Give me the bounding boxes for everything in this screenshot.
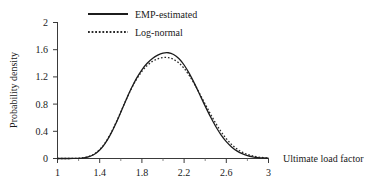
legend-label-emp-estimated: EMP-estimated: [135, 9, 197, 20]
y-tick-label-0p4: 0.4: [36, 126, 49, 137]
chart-legend: EMP-estimated Log-normal: [88, 9, 197, 38]
series-line-emp-estimated: [58, 53, 269, 159]
y-tick-label-1p6: 1.6: [36, 44, 49, 55]
x-tick-label-3: 3: [266, 167, 271, 178]
y-tick-label-0: 0: [43, 153, 48, 164]
legend-label-log-normal: Log-normal: [135, 27, 183, 38]
x-axis-title: Ultimate load factor: [283, 153, 364, 164]
x-tick-label-1p4: 1.4: [93, 167, 106, 178]
x-tick-label-2p6: 2.6: [220, 167, 233, 178]
y-axis-title: Probability density: [8, 52, 19, 128]
y-axis-ticks: 2 1.6 1.2 0.8 0.4 0: [36, 17, 58, 164]
y-tick-label-0p8: 0.8: [36, 99, 49, 110]
series-line-log-normal: [58, 57, 269, 158]
x-tick-label-1p8: 1.8: [136, 167, 149, 178]
y-tick-label-2: 2: [43, 17, 48, 28]
chart-axes: [57, 22, 269, 159]
x-axis-ticks: 1 1.4 1.8 2.2 2.6 3: [55, 159, 271, 179]
density-plot-svg: EMP-estimated Log-normal 2 1.6 1.2 0.8 0…: [0, 0, 377, 188]
chart-figure: EMP-estimated Log-normal 2 1.6 1.2 0.8 0…: [0, 0, 377, 188]
x-tick-label-1: 1: [55, 167, 60, 178]
x-tick-label-2p2: 2.2: [178, 167, 191, 178]
y-tick-label-1p2: 1.2: [36, 71, 49, 82]
